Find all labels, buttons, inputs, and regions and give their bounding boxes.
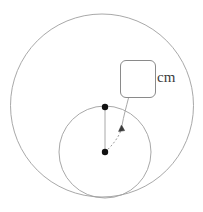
- geometry-figure: [0, 0, 203, 212]
- answer-input[interactable]: [120, 60, 156, 98]
- arc-arrowhead: [119, 125, 125, 131]
- lower-point: [102, 149, 108, 155]
- upper-point: [102, 104, 108, 110]
- diagram-canvas: cm: [0, 0, 203, 212]
- unit-label: cm: [157, 69, 176, 85]
- outer-circle: [11, 14, 194, 197]
